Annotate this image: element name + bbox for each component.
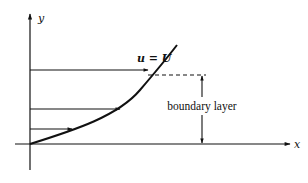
boundary-layer-diagram: y x u = U boundary layer bbox=[0, 0, 308, 183]
x-axis-label: x bbox=[294, 138, 301, 151]
free-stream-label: u = U bbox=[137, 52, 173, 65]
boundary-layer-label: boundary layer bbox=[167, 100, 236, 113]
y-axis-label: y bbox=[37, 12, 45, 25]
